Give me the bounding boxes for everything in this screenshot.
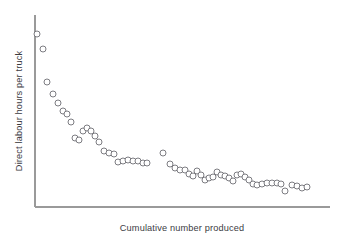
data-point [210, 174, 216, 180]
data-point [304, 184, 310, 190]
data-point [55, 100, 61, 106]
data-point [278, 181, 284, 187]
data-point [198, 172, 204, 178]
data-point [230, 178, 236, 184]
data-point [64, 111, 70, 117]
data-point [44, 79, 50, 85]
data-point [111, 151, 117, 157]
data-point [144, 160, 150, 166]
data-point [92, 133, 98, 139]
data-point [88, 128, 94, 134]
data-point [167, 161, 173, 167]
data-point [282, 188, 288, 194]
data-point [76, 137, 82, 143]
chart-figure: Cumulative number produced Direct labour… [0, 0, 347, 239]
x-axis-label: Cumulative number produced [120, 223, 244, 233]
data-point [160, 150, 166, 156]
data-point-group [34, 31, 310, 194]
data-point [68, 119, 74, 125]
y-axis-label: Direct labour hours per truck [14, 51, 24, 172]
data-point [96, 139, 102, 145]
data-point [50, 91, 56, 97]
data-point [34, 31, 40, 37]
data-point [40, 46, 46, 52]
data-point [190, 173, 196, 179]
scatter-plot: Cumulative number produced Direct labour… [0, 0, 347, 239]
